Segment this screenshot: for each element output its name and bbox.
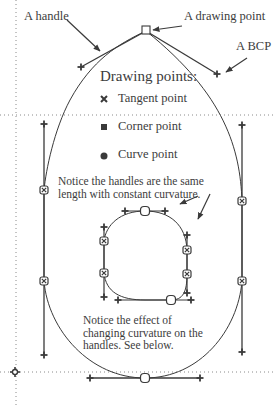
legend-title: Drawing points: bbox=[100, 69, 197, 84]
legend-tangent-label: Tangent point bbox=[118, 92, 187, 105]
label-bcp: A BCP bbox=[236, 40, 271, 53]
note-changing-curvature: Notice the effect of changing curvature … bbox=[83, 314, 215, 352]
label-drawing-point: A drawing point bbox=[184, 10, 265, 23]
label-handle: A handle bbox=[24, 10, 69, 23]
tangent-point-icon bbox=[101, 96, 107, 102]
legend-curve-label: Curve point bbox=[118, 148, 177, 161]
legend-symbols bbox=[101, 96, 108, 160]
origin-marker bbox=[10, 367, 20, 377]
corner-point-icon bbox=[101, 124, 107, 130]
legend-corner-label: Corner point bbox=[118, 120, 182, 133]
note-constant-curvature: Notice the handles are the same length w… bbox=[58, 175, 218, 200]
inner-bcps bbox=[101, 208, 195, 304]
inner-contour bbox=[104, 211, 187, 300]
inner-points bbox=[100, 207, 191, 305]
corner-point-top bbox=[142, 26, 150, 34]
curve-point-icon bbox=[101, 153, 108, 160]
